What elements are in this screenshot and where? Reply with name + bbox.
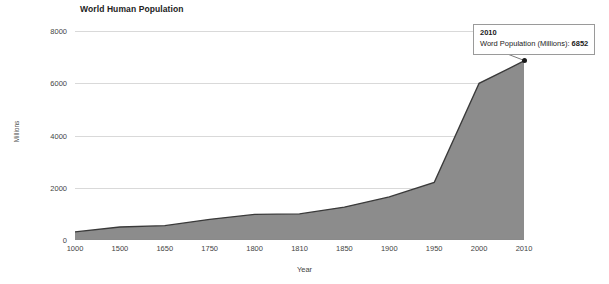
tooltip-label: Word Population (Millions): <box>480 39 569 48</box>
tooltip-value: 6852 <box>572 39 589 48</box>
tooltip-year: 2010 <box>480 28 588 39</box>
tooltip-row: Word Population (Millions): 6852 <box>480 39 588 50</box>
tooltip: 2010 Word Population (Millions): 6852 <box>473 24 595 55</box>
chart-container: World Human Population Millions 02000400… <box>0 0 609 284</box>
